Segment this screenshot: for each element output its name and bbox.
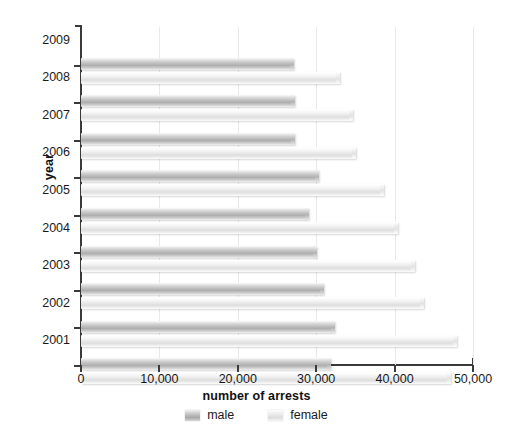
bar-male-2005 <box>81 208 309 220</box>
x-axis-tick <box>237 365 239 372</box>
bar-female-2005 <box>81 222 398 234</box>
bar-end-cap <box>305 208 309 220</box>
x-axis-tick-label: 10,000 <box>124 372 194 386</box>
y-axis-tick-label: 2003 <box>26 258 70 272</box>
y-axis-tick-label: 2009 <box>26 33 70 47</box>
y-axis-tick-label: 2002 <box>26 296 70 310</box>
legend-label-male: male <box>207 408 234 422</box>
legend-entry-female: female <box>268 408 328 422</box>
bar-female-2007 <box>81 147 356 159</box>
bar-male-2009 <box>81 58 294 70</box>
plot-area <box>81 27 473 365</box>
y-axis-tick <box>74 290 81 292</box>
bar-female-2003 <box>81 297 424 309</box>
x-axis-title: number of arrests <box>0 389 513 403</box>
y-axis-tick <box>74 215 81 217</box>
y-axis-tick-label: 2001 <box>26 333 70 347</box>
y-axis-tick-label: 2006 <box>26 145 70 159</box>
x-gridline <box>473 27 474 365</box>
y-axis-tick-label: 2004 <box>26 221 70 235</box>
bar-end-cap <box>336 72 340 84</box>
bar-male-2001 <box>81 358 331 370</box>
x-axis-tick-label: 40,000 <box>360 372 430 386</box>
bar-female-2002 <box>81 335 457 347</box>
x-axis-tick <box>394 365 396 372</box>
bar-female-2006 <box>81 184 384 196</box>
bar-chart: year number of arrests male female 010,0… <box>0 0 513 432</box>
bar-end-cap <box>352 147 356 159</box>
bar-male-2007 <box>81 133 295 145</box>
x-axis-tick-label: 30,000 <box>281 372 351 386</box>
x-axis-tick-label: 0 <box>46 372 116 386</box>
bar-end-cap <box>331 321 335 333</box>
bar-end-cap <box>290 58 294 70</box>
legend-swatch-male-icon <box>185 410 200 421</box>
bar-end-cap <box>453 335 457 347</box>
bar-male-2002 <box>81 321 335 333</box>
x-axis-tick-label: 50,000 <box>438 372 508 386</box>
legend-label-female: female <box>290 408 328 422</box>
bar-end-cap <box>315 170 319 182</box>
bar-end-cap <box>411 260 415 272</box>
y-axis-tick-label: 2008 <box>26 70 70 84</box>
y-axis-tick <box>74 177 81 179</box>
bar-end-cap <box>349 109 353 121</box>
y-axis-tick <box>74 252 81 254</box>
y-axis-tick <box>74 327 81 329</box>
y-axis-tick <box>74 65 81 67</box>
x-axis-tick <box>158 365 160 372</box>
bar-female-2009 <box>81 72 340 84</box>
bar-male-2006 <box>81 170 319 182</box>
bar-male-2003 <box>81 283 324 295</box>
y-axis-tick <box>74 365 81 367</box>
x-axis-tick <box>472 365 474 372</box>
chart-legend: male female <box>0 408 513 422</box>
bar-female-2004 <box>81 260 415 272</box>
bar-end-cap <box>380 184 384 196</box>
x-gridline <box>395 27 396 365</box>
bar-male-2004 <box>81 246 317 258</box>
bar-end-cap <box>313 246 317 258</box>
bar-end-cap <box>420 297 424 309</box>
x-axis-tick-label: 20,000 <box>203 372 273 386</box>
legend-swatch-female-icon <box>268 410 283 421</box>
bar-end-cap <box>291 133 295 145</box>
bar-male-2008 <box>81 95 295 107</box>
y-axis-tick-label: 2007 <box>26 108 70 122</box>
bar-female-2008 <box>81 109 353 121</box>
bar-end-cap <box>320 283 324 295</box>
y-axis-tick <box>74 140 81 142</box>
legend-entry-male: male <box>185 408 234 422</box>
bar-end-cap <box>291 95 295 107</box>
bar-end-cap <box>394 222 398 234</box>
bar-end-cap <box>327 358 331 370</box>
y-axis-tick <box>74 102 81 104</box>
x-axis-tick <box>315 365 317 372</box>
y-axis-tick-label: 2005 <box>26 183 70 197</box>
